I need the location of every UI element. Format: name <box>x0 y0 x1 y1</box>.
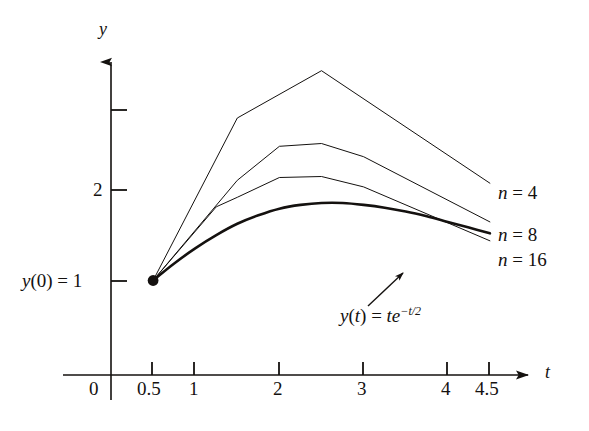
series-n16-value: 16 <box>528 249 547 270</box>
y0-label-one: 1 <box>73 270 83 291</box>
approximation-curves <box>153 71 490 281</box>
series-n4-equals: = <box>508 182 528 203</box>
x-tick-label-2: 2 <box>273 379 283 398</box>
exact-solution-callout-arrow <box>368 273 403 306</box>
curve-exact-solution <box>153 203 490 281</box>
x-axis-ticks <box>152 362 489 375</box>
series-n8-value: 8 <box>528 224 538 245</box>
y-axis-label: y <box>99 20 107 38</box>
series-n8-symbol: n <box>498 224 508 245</box>
x-tick-label-4p5: 4.5 <box>475 379 499 398</box>
series-label-n-16: n = 16 <box>498 250 547 269</box>
series-n16-symbol: n <box>498 249 508 270</box>
y0-label-zero: 0 <box>37 270 47 291</box>
x-tick-label-0p5: 0.5 <box>137 379 161 398</box>
exact-label-te: te <box>387 305 401 326</box>
series-label-n-4: n = 4 <box>498 183 537 202</box>
exact-solution-label: y(t) = te−t/2 <box>340 305 421 325</box>
curve-n-16 <box>153 177 490 281</box>
exact-label-exponent: −t/2 <box>400 304 421 318</box>
x-tick-label-1: 1 <box>189 379 199 398</box>
x-axis-label: t <box>545 363 550 381</box>
series-n4-symbol: n <box>498 182 508 203</box>
y0-label-equals: = <box>53 270 73 291</box>
series-n4-value: 4 <box>528 182 538 203</box>
initial-condition-point <box>148 275 159 286</box>
euler-approximation-plot <box>0 0 589 431</box>
series-label-n-8: n = 8 <box>498 225 537 244</box>
series-n16-equals: = <box>508 249 528 270</box>
y-axis-ticks <box>111 110 127 281</box>
exact-label-equals: = <box>366 305 386 326</box>
figure-canvas: y t 0 0.5 1 2 3 4 4.5 2 y(0) = 1 n = 4 n… <box>0 0 589 431</box>
x-tick-label-4: 4 <box>441 379 451 398</box>
curve-n-8 <box>153 144 490 281</box>
x-tick-label-3: 3 <box>357 379 367 398</box>
curve-n-4 <box>153 71 490 281</box>
origin-label: 0 <box>89 379 99 398</box>
initial-condition-label: y(0) = 1 <box>22 271 82 290</box>
series-n8-equals: = <box>508 224 528 245</box>
y-tick-label-2: 2 <box>93 180 103 199</box>
axes <box>63 62 528 400</box>
